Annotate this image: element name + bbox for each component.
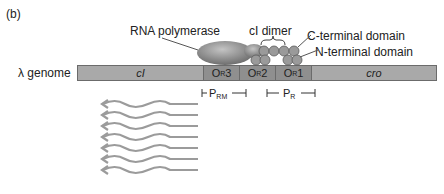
transcripts-icon	[102, 100, 198, 174]
promoter-prm-label: PRM	[209, 87, 227, 100]
dimer-brace-icon	[261, 36, 285, 45]
c-terminal-domains-icon	[259, 46, 299, 56]
rna-polymerase-icon	[162, 38, 264, 65]
n-terminal-domains-icon	[251, 55, 302, 65]
promoter-pr-label: PR	[283, 87, 295, 100]
